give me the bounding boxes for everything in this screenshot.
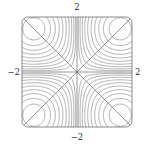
contour-plot-figure: 2 −2 −2 2 [0,0,154,152]
contour-plot-canvas [0,0,154,152]
zero-level-curves [22,17,132,127]
axis-label-bottom: −2 [0,133,154,142]
axis-label-top: 2 [0,3,154,12]
axis-label-left: −2 [2,68,20,77]
axis-label-right: 2 [135,68,153,77]
